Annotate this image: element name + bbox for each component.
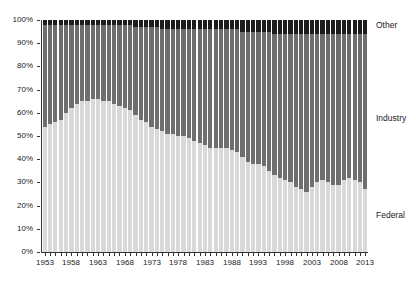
legend-label-industry: Industry [376, 114, 406, 123]
bar-segment-industry [144, 27, 148, 122]
bar-1981 [192, 20, 196, 252]
x-tick-mark [93, 253, 94, 256]
x-tick-mark [317, 253, 318, 256]
bar-1991 [246, 20, 250, 252]
bar-1957 [64, 20, 68, 252]
x-tick-mark [66, 253, 67, 256]
bar-1985 [214, 20, 218, 252]
bar-segment-industry [176, 29, 180, 136]
bar-segment-industry [315, 34, 319, 182]
plot-area [42, 20, 368, 252]
x-tick-mark [237, 253, 238, 256]
x-tick-mark [296, 253, 297, 256]
y-tick-mark [37, 159, 40, 160]
bar-segment-other [219, 20, 223, 29]
bar-2001 [299, 20, 303, 252]
bar-segment-industry [331, 34, 335, 185]
bar-2011 [353, 20, 357, 252]
bar-segment-federal [299, 189, 303, 252]
bar-segment-federal [283, 180, 287, 252]
bar-1966 [112, 20, 116, 252]
bar-segment-other [176, 20, 180, 29]
bar-segment-other [69, 20, 73, 25]
bar-segment-federal [315, 182, 319, 252]
bar-segment-other [363, 20, 367, 34]
x-tick-mark [365, 253, 366, 256]
x-tick-label: 1998 [271, 259, 299, 267]
y-tick-mark [37, 182, 40, 183]
bar-2000 [294, 20, 298, 252]
bar-segment-industry [192, 29, 196, 140]
bar-segment-other [304, 20, 308, 34]
bar-segment-industry [294, 34, 298, 187]
bar-1997 [278, 20, 282, 252]
bar-1974 [155, 20, 159, 252]
x-tick-mark [360, 253, 361, 256]
bar-segment-other [112, 20, 116, 25]
bar-segment-other [299, 20, 303, 34]
bar-segment-industry [171, 29, 175, 133]
bar-segment-federal [171, 134, 175, 252]
bar-1967 [117, 20, 121, 252]
bar-segment-industry [203, 29, 207, 145]
bar-1979 [181, 20, 185, 252]
legend-label-other: Other [376, 21, 397, 30]
x-tick-mark [119, 253, 120, 256]
bar-segment-other [358, 20, 362, 34]
bar-segment-other [283, 20, 287, 34]
bar-1986 [219, 20, 223, 252]
bar-segment-industry [96, 25, 100, 99]
x-tick-mark [269, 253, 270, 256]
bar-segment-federal [192, 141, 196, 252]
bar-segment-other [288, 20, 292, 34]
bar-segment-industry [214, 29, 218, 147]
bar-segment-other [123, 20, 127, 25]
x-tick-mark [344, 253, 345, 256]
y-tick-label: 70% [0, 86, 33, 94]
bar-segment-other [326, 20, 330, 34]
y-tick-mark [37, 90, 40, 91]
bar-segment-industry [347, 34, 351, 178]
bar-segment-other [208, 20, 212, 29]
bar-segment-other [59, 20, 63, 25]
bar-segment-industry [251, 32, 255, 164]
x-tick-mark [141, 253, 142, 256]
x-tick-mark [200, 253, 201, 256]
bar-1989 [235, 20, 239, 252]
bar-segment-other [198, 20, 202, 29]
x-tick-mark [280, 253, 281, 256]
bar-1959 [75, 20, 79, 252]
x-tick-mark [349, 253, 350, 256]
bar-1995 [267, 20, 271, 252]
bar-segment-other [43, 20, 47, 25]
bar-segment-other [278, 20, 282, 34]
bar-segment-industry [320, 34, 324, 180]
x-tick-label: 1963 [84, 259, 112, 267]
bar-1968 [123, 20, 127, 252]
bar-segment-industry [117, 25, 121, 106]
bar-1980 [187, 20, 191, 252]
x-tick-mark [71, 253, 72, 256]
bar-segment-federal [203, 145, 207, 252]
bar-segment-federal [112, 104, 116, 252]
bar-segment-federal [224, 148, 228, 252]
bar-2007 [331, 20, 335, 252]
x-tick-mark [312, 253, 313, 256]
bar-segment-other [133, 20, 137, 27]
x-tick-mark [355, 253, 356, 256]
bar-segment-federal [262, 166, 266, 252]
bar-segment-other [144, 20, 148, 27]
bar-1983 [203, 20, 207, 252]
bar-segment-industry [299, 34, 303, 189]
y-tick-label: 40% [0, 155, 33, 163]
bar-segment-industry [139, 27, 143, 120]
bar-segment-federal [176, 136, 180, 252]
bar-2005 [320, 20, 324, 252]
bar-segment-other [310, 20, 314, 34]
bar-segment-federal [310, 187, 314, 252]
stacked-bar-chart: 0%10%20%30%40%50%60%70%80%90%100% 195319… [0, 0, 416, 282]
bar-segment-industry [112, 25, 116, 104]
x-tick-label: 1993 [244, 259, 272, 267]
bar-segment-federal [294, 187, 298, 252]
bar-segment-industry [336, 34, 340, 185]
